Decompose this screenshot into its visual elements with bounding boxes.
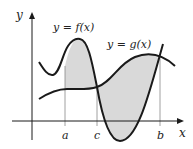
curve-g-label: y = g(x) bbox=[106, 38, 151, 51]
y-axis-arrow-icon bbox=[29, 12, 35, 19]
x-axis-arrow-icon bbox=[177, 118, 184, 124]
curve-f-label: y = f(x) bbox=[52, 21, 94, 34]
y-axis-label: y bbox=[15, 8, 23, 22]
x-axis-label: x bbox=[179, 126, 186, 140]
shaded-region-c-b bbox=[97, 54, 159, 141]
tick-label-c: c bbox=[94, 129, 100, 142]
tick-label-b: b bbox=[157, 129, 164, 142]
tick-label-a: a bbox=[62, 129, 69, 142]
area-between-curves-diagram: y x y = f(x) y = g(x) a c b bbox=[0, 0, 193, 149]
